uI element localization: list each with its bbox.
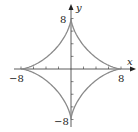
astroid-chart: y x 8 −8 −8 8 (0, 0, 138, 132)
y-axis-arrow-icon (69, 4, 74, 10)
y-max-label: 8 (60, 14, 66, 25)
x-axis-arrow-icon (130, 67, 136, 72)
x-axis-label: x (127, 56, 133, 67)
x-min-label: −8 (9, 73, 24, 84)
y-min-label: −8 (54, 116, 69, 127)
x-max-label: 8 (118, 73, 124, 84)
y-axis-label: y (75, 2, 82, 13)
